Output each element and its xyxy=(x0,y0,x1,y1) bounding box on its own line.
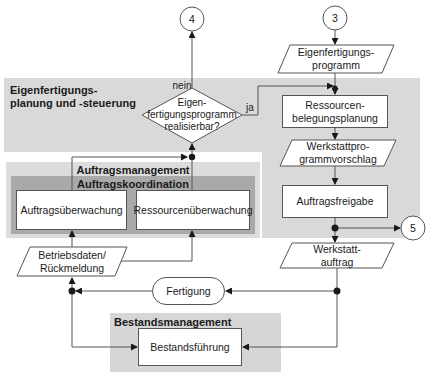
external-production[interactable]: Fertigung xyxy=(152,277,225,305)
connector-4-label: 4 xyxy=(180,12,204,26)
decision-yes-label: ja xyxy=(243,101,257,113)
data-operating-data: Betriebsdaten/ Rückmeldung xyxy=(22,247,122,276)
data-production-program: Eigenfertigungs- programm xyxy=(284,45,388,73)
process-inventory-control[interactable]: Bestandsführung xyxy=(138,328,242,366)
connector-3-label: 3 xyxy=(323,11,347,25)
data-workshop-order: Werkstatt- auftrag xyxy=(286,243,388,268)
connector-5-label: 5 xyxy=(401,221,425,235)
process-order-monitoring[interactable]: Auftragsüberwachung xyxy=(16,190,127,230)
process-resource-scheduling[interactable]: Ressourcen- belegungsplanung xyxy=(282,95,388,128)
process-resource-monitoring[interactable]: Ressourcenüberwachung xyxy=(136,190,250,230)
data-workshop-program-proposal: Werkstattpro- grammvorschlag xyxy=(286,140,390,166)
process-order-release[interactable]: Auftragsfreigabe xyxy=(282,185,388,218)
decision-text: Eigen- fertigungsprogramm realisierbar? xyxy=(142,95,242,135)
decision-no-label: nein xyxy=(172,79,192,91)
